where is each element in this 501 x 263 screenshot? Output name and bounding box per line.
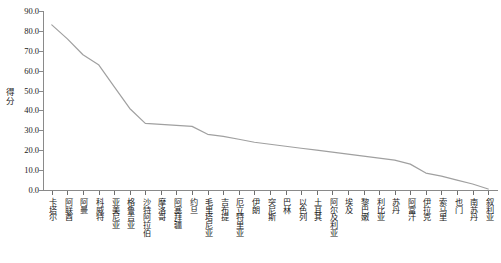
y-tick-mark xyxy=(39,31,43,32)
y-tick-mark xyxy=(39,130,43,131)
y-tick-mark xyxy=(39,91,43,92)
y-tick-mark xyxy=(39,170,43,171)
y-tick-mark xyxy=(39,190,43,191)
y-tick-mark xyxy=(39,71,43,72)
series-polyline xyxy=(52,25,488,189)
data-line-series xyxy=(0,0,501,263)
y-tick-mark xyxy=(39,11,43,12)
y-tick-mark xyxy=(39,150,43,151)
y-tick-mark xyxy=(39,110,43,111)
y-tick-mark xyxy=(39,51,43,52)
line-chart: 得分 0.010.020.030.040.050.060.070.080.090… xyxy=(0,0,501,263)
